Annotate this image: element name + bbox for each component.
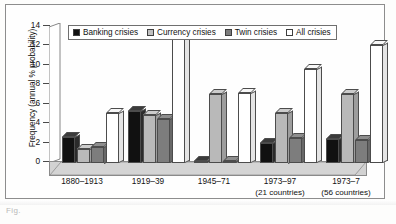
x-category-label-3: 1973–97(21 countries): [244, 176, 316, 198]
bar-front-face: [223, 161, 236, 163]
bar-side-face: [222, 92, 227, 163]
y-tick-label: 4: [35, 122, 40, 123]
bar-front-face: [62, 137, 75, 163]
figure-page: Frequency (annual % probability) 0246810…: [0, 0, 396, 224]
bar-front-face: [238, 93, 251, 163]
bar-all-1: [172, 35, 185, 163]
legend-item-currency: Currency crisies: [147, 28, 216, 37]
bar-all-4: [370, 45, 383, 163]
scan-edge: [0, 200, 396, 205]
bar-front-face: [194, 161, 207, 163]
bar-front-face: [143, 115, 156, 163]
axis-riser-3d: [49, 23, 61, 163]
legend-item-twin: Twin crisies: [225, 28, 277, 37]
bar-front-face: [77, 149, 90, 163]
legend-label-banking: Banking crisies: [83, 28, 138, 37]
y-tick-label: 12: [31, 44, 40, 45]
bar-front-face: [157, 119, 170, 163]
legend: Banking crisiesCurrency crisiesTwin cris…: [68, 25, 337, 40]
bar-twin-3: [289, 138, 302, 163]
y-tick-label: 2: [35, 141, 40, 142]
x-category-period: 1973–97: [264, 176, 296, 186]
bar-front-face: [91, 147, 104, 164]
bar-front-face: [370, 45, 383, 163]
bar-front-face: [209, 94, 222, 163]
x-category-period: 1880–1913: [61, 176, 103, 186]
legend-swatch-all-icon: [286, 29, 293, 36]
bar-all-2: [238, 93, 251, 163]
figure-caption: Fig.: [6, 206, 21, 222]
bar-side-face: [185, 32, 190, 163]
bar-front-face: [326, 139, 339, 163]
y-tick-label: 6: [35, 102, 40, 103]
y-tick-label: 8: [35, 83, 40, 84]
bar-currency-1: [143, 115, 156, 163]
legend-label-all: All crisies: [296, 28, 331, 37]
bar-banking-4: [326, 139, 339, 163]
x-category-label-0: 1880–1913: [46, 176, 118, 187]
legend-swatch-currency-icon: [147, 29, 154, 36]
legend-swatch-twin-icon: [225, 29, 232, 36]
plot-area: 02468101214: [40, 23, 380, 178]
bar-front-face: [106, 113, 119, 163]
x-category-label-1: 1919–39: [112, 176, 184, 187]
bar-front-face: [341, 94, 354, 163]
bar-side-face: [251, 91, 256, 163]
legend-label-currency: Currency crisies: [157, 28, 216, 37]
x-category-period: 1919–39: [132, 176, 164, 186]
bar-currency-3: [275, 113, 288, 164]
y-tick-label: 10: [31, 63, 40, 64]
x-category-label-4: 1973–7(56 countries): [310, 176, 382, 198]
x-category-period: 1945–71: [198, 176, 230, 186]
plot-floor: [49, 161, 367, 176]
bar-banking-0: [62, 137, 75, 163]
bar-currency-2: [209, 94, 222, 163]
bar-front-face: [304, 69, 317, 163]
x-category-period: 1973–7: [332, 176, 360, 186]
bar-side-face: [383, 43, 388, 163]
bar-banking-1: [128, 111, 141, 163]
bar-front-face: [289, 138, 302, 163]
bar-front-face: [172, 35, 185, 163]
legend-item-banking: Banking crisies: [73, 28, 138, 37]
bar-twin-1: [157, 119, 170, 163]
legend-swatch-banking-icon: [73, 29, 80, 36]
bar-side-face: [317, 66, 322, 163]
legend-item-all: All crisies: [286, 28, 331, 37]
bar-all-3: [304, 69, 317, 163]
bar-front-face: [275, 113, 288, 164]
bar-front-face: [260, 143, 273, 163]
bar-banking-2: [194, 161, 207, 163]
bar-banking-3: [260, 143, 273, 163]
figure-frame: Frequency (annual % probability) 0246810…: [5, 4, 385, 199]
y-tick-label: 0: [35, 161, 40, 162]
bar-currency-4: [341, 94, 354, 163]
y-tick-label: 14: [31, 25, 40, 26]
x-category-sublabel: (56 countries): [310, 187, 382, 198]
bar-all-0: [106, 113, 119, 163]
bar-side-face: [119, 111, 124, 163]
bar-twin-4: [355, 140, 368, 163]
legend-label-twin: Twin crisies: [235, 28, 277, 37]
bar-front-face: [128, 111, 141, 163]
x-category-sublabel: (21 countries): [244, 187, 316, 198]
bar-front-face: [355, 140, 368, 163]
bar-twin-2: [223, 161, 236, 163]
bar-currency-0: [77, 149, 90, 163]
bar-twin-0: [91, 147, 104, 164]
x-category-label-2: 1945–71: [178, 176, 250, 187]
